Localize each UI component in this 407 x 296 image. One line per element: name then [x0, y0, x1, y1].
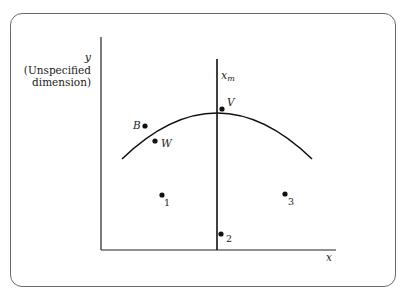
point-W: W — [152, 137, 173, 149]
x-axis-label: x — [326, 251, 332, 263]
point-B: B — [132, 119, 148, 131]
diagram-canvas: y (Unspecified dimension) x xm B W V 1 2… — [0, 0, 407, 296]
svg-text:V: V — [227, 96, 236, 108]
svg-text:2: 2 — [226, 233, 232, 244]
point-V: V — [219, 96, 236, 112]
point-2: 2 — [218, 231, 232, 244]
point-3: 3 — [282, 191, 294, 207]
y-axis-label-line2: dimension) — [32, 76, 91, 88]
svg-text:B: B — [132, 119, 141, 131]
point-1: 1 — [159, 192, 170, 208]
y-axis-var-label: y — [84, 51, 92, 64]
svg-text:1: 1 — [164, 197, 170, 208]
y-axis-label-line1: (Unspecified — [24, 64, 91, 76]
svg-text:3: 3 — [288, 196, 294, 207]
median-line-label: xm — [221, 69, 235, 83]
svg-text:W: W — [161, 137, 173, 149]
